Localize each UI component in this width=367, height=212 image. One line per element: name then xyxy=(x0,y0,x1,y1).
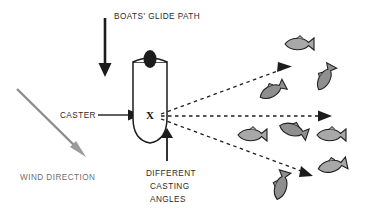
fishing-boat-casting-diagram: X xyxy=(0,0,367,212)
label-different-casting-angles: DIFFERENT CASTING ANGLES xyxy=(146,169,196,204)
fish-7 xyxy=(317,155,348,175)
fish-school xyxy=(238,36,348,202)
label-casting-line-3: ANGLES xyxy=(150,195,186,204)
label-casting-line-2: CASTING xyxy=(150,182,190,191)
cast-lines-group xyxy=(161,62,332,177)
fish-1 xyxy=(285,36,314,50)
fish-2 xyxy=(312,62,337,93)
diagram-canvas: X xyxy=(0,0,367,212)
boats-glide-path-arrow xyxy=(99,18,112,77)
label-boats-glide-path: BOATS' GLIDE PATH xyxy=(114,12,200,21)
angler-seat-icon xyxy=(144,50,157,68)
fish-3 xyxy=(257,77,288,102)
label-casting-line-1: DIFFERENT xyxy=(146,169,196,178)
label-wind-direction: WIND DIRECTION xyxy=(20,173,95,182)
fish-6 xyxy=(317,127,346,141)
fish-4 xyxy=(238,127,267,141)
wind-direction-arrow xyxy=(17,89,86,157)
label-caster: CASTER xyxy=(60,111,96,120)
fish-5 xyxy=(278,118,310,141)
fish-8 xyxy=(269,169,291,201)
boat-hull: X xyxy=(133,50,167,143)
boat-marker-x: X xyxy=(146,109,154,121)
cast-line-middle xyxy=(161,111,332,122)
